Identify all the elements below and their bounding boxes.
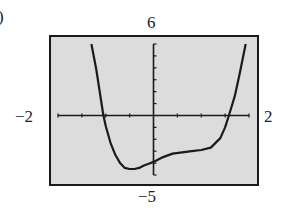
axes xyxy=(58,44,249,175)
function-curve xyxy=(91,44,245,169)
graph-plot xyxy=(0,0,283,211)
